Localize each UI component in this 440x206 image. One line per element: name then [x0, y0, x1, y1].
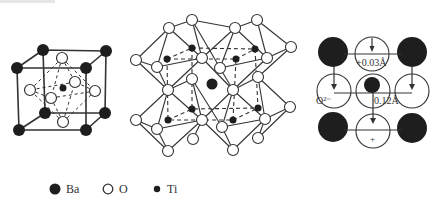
oxygen-atom [187, 15, 198, 26]
oxygen-atom [152, 62, 163, 73]
barium-atom [100, 45, 112, 57]
oxygen-atom [253, 133, 264, 144]
cropped-caption-fragment [0, 0, 55, 3]
barium-atom [13, 124, 25, 136]
oxygen-atom [253, 72, 264, 83]
barium-atom [80, 124, 92, 136]
barium-legend-icon [50, 184, 61, 195]
bottom-sign-label: + [370, 134, 375, 144]
oxygen-atom [197, 115, 208, 126]
oxygen-atom [285, 102, 296, 113]
oxygen-atom [217, 122, 228, 133]
oxygen-atom [163, 146, 174, 157]
titanium-atom [233, 56, 240, 63]
oxygen-atom [90, 86, 101, 97]
oxygen-atom [152, 124, 163, 135]
titanium-atom [252, 46, 259, 53]
barium-atom [318, 37, 348, 67]
oxygen-atom [197, 53, 208, 64]
oxygen-atom [58, 117, 69, 128]
oxygen-atom [70, 77, 81, 88]
top-shift-label: +0.03Å [356, 57, 387, 68]
oxygen-atom [228, 145, 239, 156]
titanium-atom [165, 117, 172, 124]
oxygen-atom [131, 115, 142, 126]
legend-label-ba: Ba [66, 182, 80, 196]
titanium-atom [230, 117, 237, 124]
displacement-projection-panel: +0.03Å O²⁻ 0.12Å + [316, 37, 429, 148]
oxygen-atom [286, 42, 297, 53]
oxygen-atom [215, 63, 226, 74]
titanium-atom [255, 105, 262, 112]
legend-label-ti: Ti [167, 182, 178, 196]
titanium-atom [189, 45, 196, 52]
titanium-atom [164, 56, 171, 63]
barium-atom [397, 113, 427, 143]
barium-atom [11, 62, 23, 74]
titanium-legend-icon [154, 186, 160, 192]
oxygen-atom [252, 15, 263, 26]
ti-shift-label: 0.12Å [374, 95, 400, 106]
oxygen-atom [228, 85, 239, 96]
oxygen-atom [188, 134, 199, 145]
barium-atom [80, 62, 92, 74]
oxygen-atom [164, 23, 175, 34]
barium-atom [397, 37, 427, 67]
barium-atom [318, 112, 348, 142]
barium-atom [37, 44, 49, 56]
barium-atom [99, 107, 111, 119]
oxygen-atom [187, 74, 198, 85]
barium-atom [39, 107, 51, 119]
titanium-atom [60, 85, 67, 92]
oxygen-atom [262, 53, 273, 64]
oxygen-atom [25, 85, 36, 96]
titanium-atom [364, 77, 380, 93]
oxygen-atom [163, 85, 174, 96]
legend-label-o: O [119, 182, 128, 196]
oxygen-legend-icon [103, 184, 113, 194]
oxygen-atom [260, 114, 271, 125]
oxygen-atom [46, 93, 57, 104]
oxygen-atom [131, 55, 142, 66]
octahedra-network-atoms [131, 15, 297, 157]
titanium-atom [189, 106, 196, 113]
oxygen-atom [57, 53, 68, 64]
oxygen-ion-label: O²⁻ [316, 95, 331, 106]
legend: Ba O Ti [50, 182, 178, 196]
perovskite-figure: +0.03Å O²⁻ 0.12Å + Ba O Ti [0, 0, 440, 206]
oxygen-atom [230, 23, 241, 34]
barium-atom [207, 79, 218, 90]
